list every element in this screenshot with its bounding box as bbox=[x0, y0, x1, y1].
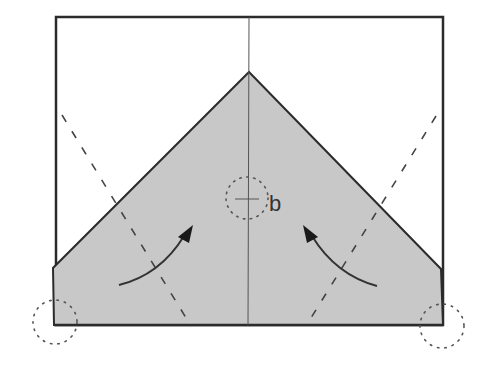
label-b: b bbox=[269, 191, 281, 216]
origami-diagram: b bbox=[0, 0, 483, 373]
